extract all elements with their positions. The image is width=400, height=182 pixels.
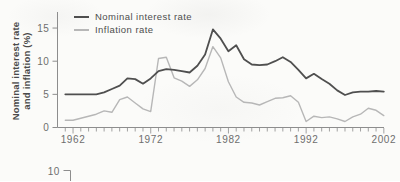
legend-item-nominal-interest-rate: Nominal interest rate [74,10,192,23]
y-tick-label: 0 [43,122,49,133]
inflation-line-swatch-icon [74,29,89,31]
y-axis-label: Nominal interest rate and inflation (%) [10,16,32,126]
next-chart-tick-label: 10 [48,166,60,177]
legend-label-inflation: Inflation rate [95,24,154,35]
y-tick-label: 10 [37,56,49,67]
legend-item-inflation-rate: Inflation rate [74,23,192,36]
x-tick-label: 2002 [372,134,397,145]
legend: Nominal interest rate Inflation rate [74,10,192,36]
y-tick-label: 15 [37,23,49,34]
y-tick-label: 5 [43,89,49,100]
line-chart: 0510151962197219821992200210 [0,0,400,181]
x-tick-label: 1992 [294,134,319,145]
nominal-interest-rate-line [65,29,384,95]
figure: 0510151962197219821992200210 Nominal int… [0,0,400,181]
legend-label-nominal: Nominal interest rate [95,11,192,22]
inflation-rate-line [65,47,384,122]
x-tick-label: 1972 [138,134,163,145]
x-tick-label: 1962 [61,134,86,145]
next-chart-axis-fragment [64,171,71,182]
x-tick-label: 1982 [216,134,241,145]
y-axis-label-line1: Nominal interest rate [10,16,21,126]
nominal-line-swatch-icon [74,16,89,18]
y-axis-label-line2: and inflation (%) [21,16,32,126]
